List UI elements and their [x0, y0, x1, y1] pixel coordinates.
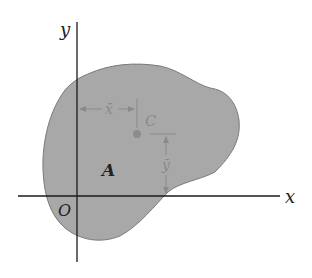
area-label: A [100, 160, 115, 180]
x-axis-label: x [285, 186, 295, 207]
y-bar-label: ȳ [161, 157, 171, 173]
y-axis-label: y [59, 19, 71, 40]
origin-label: O [58, 201, 71, 220]
area-region [43, 64, 239, 240]
centroid-diagram: y x O A C x̄ ȳ [0, 0, 312, 278]
centroid-label: C [145, 112, 157, 130]
x-bar-label: x̄ [105, 101, 113, 117]
centroid-point [133, 130, 141, 138]
